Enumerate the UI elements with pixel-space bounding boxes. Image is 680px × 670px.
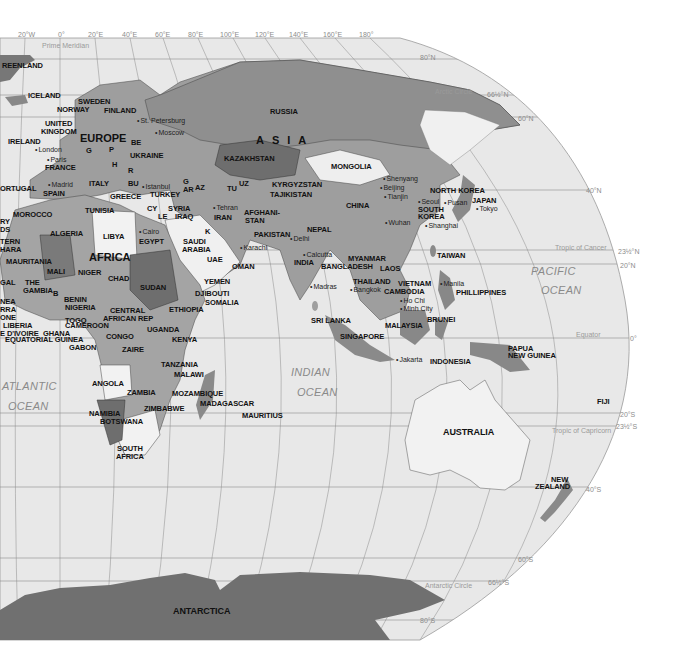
equator-label: Equator bbox=[576, 331, 601, 338]
country-thailand: THAILAND bbox=[353, 278, 391, 286]
country-uganda: UGANDA bbox=[147, 326, 179, 334]
country-algeria: ALGERIA bbox=[50, 230, 83, 238]
city-tehran: Tehran bbox=[213, 204, 238, 211]
city-karachi: Karachi bbox=[240, 244, 267, 251]
region-asia: ASIA bbox=[256, 135, 314, 146]
longitude-label-100e: 100°E bbox=[220, 31, 239, 38]
taiwan-landmass bbox=[430, 245, 436, 257]
city-bangkok: Bangkok bbox=[350, 286, 381, 293]
country-italy: ITALY bbox=[89, 180, 109, 188]
country-north-korea: NORTH KOREA bbox=[430, 187, 485, 195]
country-cyprus: CY bbox=[147, 205, 157, 213]
country-russia: RUSSIA bbox=[270, 108, 298, 116]
antarctic-circle-label: Antarctic Circle bbox=[425, 582, 472, 589]
city-manila: Manila bbox=[440, 280, 464, 287]
ocean-pacific-1: PACIFIC bbox=[531, 266, 576, 277]
ocean-atlantic-1: ATLANTIC bbox=[2, 381, 57, 392]
country-namibia: NAMIBIA bbox=[89, 410, 120, 418]
country-romania: R bbox=[128, 167, 133, 175]
country-armenia: AR bbox=[183, 186, 194, 194]
longitude-label-180: 180° bbox=[359, 31, 373, 38]
city-shanghai: Shanghai bbox=[425, 222, 458, 229]
country-belarus: BE bbox=[131, 139, 141, 147]
country-mozambique: MOZAMBIQUE bbox=[172, 390, 223, 398]
country-portugal: ORTUGAL bbox=[0, 185, 36, 193]
country-taiwan: TAIWAN bbox=[437, 252, 465, 260]
region-antarctica: ANTARCTICA bbox=[173, 607, 230, 616]
longitude-label-40e: 40°E bbox=[122, 31, 137, 38]
country-ukraine: UKRAINE bbox=[130, 152, 163, 160]
country-spain: SPAIN bbox=[43, 190, 65, 198]
country-indonesia: INDONESIA bbox=[430, 358, 471, 366]
city-jakarta: Jakarta bbox=[396, 356, 422, 363]
country-germany: G bbox=[86, 147, 92, 155]
country-south-korea-2: KOREA bbox=[418, 213, 445, 221]
country-turkey: TURKEY bbox=[150, 191, 180, 199]
city-beijing: Beijing bbox=[380, 184, 404, 191]
country-sudan: SUDAN bbox=[140, 284, 166, 292]
tropic-of-capricorn-label: Tropic of Capricorn bbox=[552, 427, 611, 434]
city-madras: Madras bbox=[310, 283, 337, 290]
longitude-label-160e: 160°E bbox=[323, 31, 342, 38]
city-paris: Paris bbox=[47, 156, 66, 163]
country-car-2: AFRICAN REP bbox=[103, 315, 153, 323]
country-libya: LIBYA bbox=[103, 233, 124, 241]
region-europe: EUROPE bbox=[80, 133, 126, 144]
city-seoul: Seoul bbox=[418, 198, 439, 205]
country-ethiopia: ETHIOPIA bbox=[169, 306, 204, 314]
country-zambia: ZAMBIA bbox=[127, 389, 156, 397]
country-nigeria: NIGERIA bbox=[65, 304, 96, 312]
ocean-indian-2: OCEAN bbox=[297, 387, 338, 398]
country-azerbaijan: AZ bbox=[195, 184, 205, 192]
country-china: CHINA bbox=[346, 202, 369, 210]
country-pakistan: PAKISTAN bbox=[254, 231, 290, 239]
country-south-africa-2: AFRICA bbox=[116, 453, 144, 461]
latitude-label-23s: 23½°S bbox=[616, 423, 637, 430]
city-tianjin: Tianjin bbox=[384, 193, 408, 200]
city-ho-chi-minh-1: Ho Chi bbox=[400, 297, 425, 304]
country-uk-2: KINGDOM bbox=[41, 128, 77, 136]
city-pusan: Pusan bbox=[444, 199, 467, 206]
country-finland: FINLAND bbox=[104, 107, 136, 115]
country-poland: P bbox=[109, 146, 114, 154]
country-botswana: BOTSWANA bbox=[100, 418, 143, 426]
country-kenya: KENYA bbox=[172, 336, 197, 344]
country-saudi-arabia-2: ARABIA bbox=[182, 246, 211, 254]
ocean-pacific-2: OCEAN bbox=[541, 285, 582, 296]
ocean-indian-1: INDIAN bbox=[291, 367, 330, 378]
country-tanzania: TANZANIA bbox=[161, 361, 198, 369]
country-gabon: GABON bbox=[69, 344, 96, 352]
country-madagascar: MADAGASCAR bbox=[200, 400, 254, 408]
country-western-sahara-2: HARA bbox=[0, 246, 21, 254]
latitude-label-80s: 80°S bbox=[420, 617, 435, 624]
country-india: INDIA bbox=[294, 259, 314, 267]
country-congo: CONGO bbox=[106, 333, 134, 341]
country-iceland: ICELAND bbox=[28, 92, 61, 100]
latitude-label-40n: 40°N bbox=[586, 187, 602, 194]
longitude-label-120e: 120°E bbox=[255, 31, 274, 38]
country-egypt: EGYPT bbox=[139, 238, 164, 246]
latitude-label-20s: 20°S bbox=[620, 411, 635, 418]
city-delhi: Delhi bbox=[290, 235, 309, 242]
country-mongolia: MONGOLIA bbox=[331, 163, 371, 171]
country-kuwait: K bbox=[205, 228, 210, 236]
country-ghana: GHANA bbox=[43, 330, 70, 338]
city-madrid: Madrid bbox=[48, 181, 73, 188]
tropic-of-cancer-label: Tropic of Cancer bbox=[555, 244, 606, 251]
country-afghanistan-2: STAN bbox=[245, 217, 264, 225]
city-st-petersburg: St. Petersburg bbox=[137, 117, 185, 124]
country-guinea: NEA bbox=[0, 298, 16, 306]
country-bulgaria: BU bbox=[128, 180, 139, 188]
city-ho-chi-minh-2: Minh City bbox=[400, 305, 433, 312]
country-ireland: IRELAND bbox=[8, 138, 41, 146]
country-togo: TOGO bbox=[65, 317, 87, 325]
country-zaire: ZAIRE bbox=[122, 346, 144, 354]
country-tunisia: TUNISIA bbox=[85, 207, 114, 215]
longitude-label-140e: 140°E bbox=[289, 31, 308, 38]
country-somalia: SOMALIA bbox=[205, 299, 239, 307]
city-london: London bbox=[35, 146, 62, 153]
latitude-label-60n: 60°N bbox=[518, 115, 534, 122]
country-niger: NIGER bbox=[78, 269, 101, 277]
country-morocco: MOROCCO bbox=[13, 211, 52, 219]
country-greenland: REENLAND bbox=[2, 62, 43, 70]
